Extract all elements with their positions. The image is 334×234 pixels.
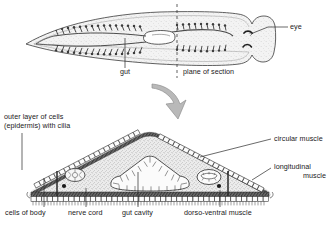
whole-body-diagram xyxy=(26,4,288,78)
label-circular-muscle: circular muscle xyxy=(274,135,323,144)
circular-muscle-leader-line xyxy=(200,139,271,157)
label-longitudinal-line2: muscle xyxy=(274,172,326,181)
label-epidermis-line2: (epidermis) with cilia xyxy=(4,122,70,131)
section-arrow xyxy=(152,84,186,119)
label-eye: eye xyxy=(290,23,302,32)
label-plane-of-section: plane of section xyxy=(183,68,234,77)
muscle-layer-ventral xyxy=(31,192,269,197)
label-gut: gut xyxy=(114,68,136,77)
transverse-section-diagram xyxy=(22,130,273,207)
nerve-cord-left xyxy=(62,184,66,188)
label-cells-of-body: cells of body xyxy=(5,209,46,218)
nerve-cord-right xyxy=(217,184,221,188)
label-dorso-ventral-muscle: dorso-ventral muscle xyxy=(184,209,252,218)
lateral-gut-branch-right xyxy=(197,170,221,185)
label-gut-cavity: gut cavity xyxy=(122,209,153,218)
cilia-fringe xyxy=(33,201,264,205)
label-nerve-cord: nerve cord xyxy=(68,209,102,218)
lateral-gut-branch-left xyxy=(65,169,85,182)
longitudinal-muscle-leader-line xyxy=(252,168,271,180)
